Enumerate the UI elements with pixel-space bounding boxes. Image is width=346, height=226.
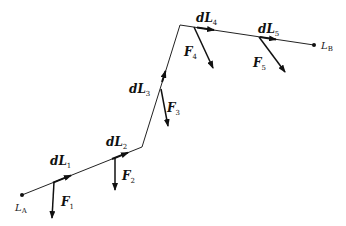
f4-arrow: [194, 27, 213, 68]
dl5-arrow: [260, 37, 276, 39]
dl4-label: dL4: [196, 11, 218, 27]
dl1-label: dL1: [50, 154, 71, 170]
dl3-arrow: [162, 71, 166, 82]
f2-label: F2: [121, 169, 135, 185]
endpoint-la-label: LA: [14, 202, 28, 215]
dl3-label: dL3: [129, 82, 150, 98]
f1-label: F1: [60, 195, 74, 211]
endpoint-lb-dot: [312, 43, 316, 47]
dl5-label: dL5: [258, 22, 279, 38]
dl1-arrow: [53, 175, 71, 182]
wire-force-diagram: dL1 dL2 dL3 dL4 dL5 F1 F2 F3 F4 F5 LA LB: [0, 0, 346, 226]
f5-label: F5: [252, 56, 266, 72]
endpoint-lb-label: LB: [320, 40, 333, 53]
f3-label: F3: [166, 101, 180, 117]
endpoint-la-dot: [20, 193, 24, 197]
f1-arrow: [52, 182, 54, 218]
dl2-label: dL2: [106, 135, 127, 151]
f4-label: F4: [183, 45, 198, 61]
dl4-arrow: [197, 28, 214, 31]
